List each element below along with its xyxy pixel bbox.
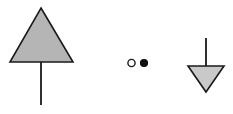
up-triangle-group[interactable] xyxy=(10,8,73,105)
down-triangle-group[interactable] xyxy=(188,38,224,92)
diagram-canvas xyxy=(0,0,233,114)
down-triangle-shape[interactable] xyxy=(188,66,224,92)
open-circle-marker[interactable] xyxy=(128,59,135,66)
marker-group xyxy=(128,59,148,66)
up-triangle-shape[interactable] xyxy=(10,8,73,62)
filled-dot-marker[interactable] xyxy=(141,60,148,67)
symbol-diagram xyxy=(0,0,233,114)
